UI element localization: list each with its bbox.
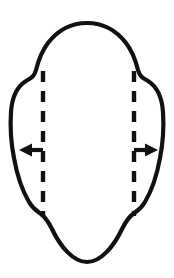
oval-outline	[11, 23, 164, 262]
figure-canvas: Oval outline with two dashed vertical fo…	[0, 0, 174, 278]
diagram-svg: Oval outline with two dashed vertical fo…	[0, 0, 174, 278]
